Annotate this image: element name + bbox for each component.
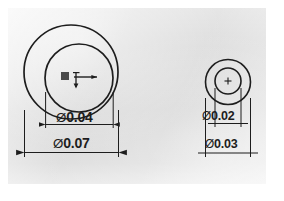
diameter-symbol-icon: Ø: [53, 136, 63, 151]
left-outer-circle: [24, 25, 118, 119]
right-outer-diameter-value: 0.03: [214, 137, 238, 151]
right-figure-geometry: [206, 60, 251, 105]
left-outer-diameter-value: 0.07: [63, 135, 89, 151]
technical-drawing-canvas: [0, 0, 284, 201]
origin-square-marker: [61, 72, 69, 80]
left-inner-diameter-label: Ø0.04: [56, 110, 93, 124]
diameter-symbol-icon: Ø: [202, 109, 211, 123]
left-outer-diameter-label: Ø0.07: [53, 136, 90, 150]
right-inner-diameter-value: 0.02: [211, 109, 235, 123]
diameter-symbol-icon: Ø: [56, 110, 66, 125]
left-figure-geometry: [24, 25, 118, 119]
right-inner-diameter-label: Ø0.02: [202, 110, 235, 123]
diameter-symbol-icon: Ø: [205, 137, 214, 151]
origin-axis-arrow-down: [74, 84, 79, 89]
left-inner-circle: [45, 44, 113, 112]
left-inner-diameter-value: 0.04: [66, 109, 92, 125]
drawing-page: Ø0.04 Ø0.07 Ø0.02 Ø0.03: [0, 0, 284, 201]
right-outer-diameter-label: Ø0.03: [205, 138, 238, 151]
